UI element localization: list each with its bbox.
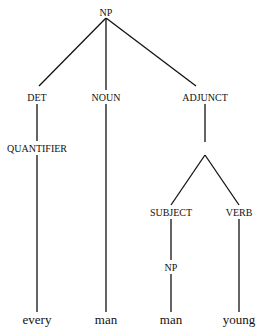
node-det: DET (26, 92, 47, 103)
leaf-man-1: man (94, 313, 118, 327)
edge-np-det (39, 18, 106, 86)
node-verb: VERB (225, 207, 254, 218)
edge-branch-subject (171, 155, 205, 205)
leaf-man-2: man (159, 313, 183, 327)
node-noun: NOUN (91, 92, 122, 103)
edge-branch-verb (205, 155, 239, 205)
leaf-young: young (222, 313, 257, 327)
node-adjunct: ADJUNCT (181, 92, 229, 103)
node-sub-np: NP (164, 262, 179, 273)
node-quantifier: QUANTIFIER (6, 143, 68, 154)
edge-np-adjunct (106, 18, 196, 86)
node-root-np: NP (99, 7, 114, 18)
node-subject: SUBJECT (149, 207, 193, 218)
leaf-every: every (22, 313, 53, 327)
tree-edges (0, 0, 265, 332)
